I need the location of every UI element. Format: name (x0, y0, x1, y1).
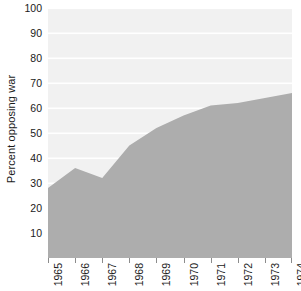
y-axis-tick-label: 100 (24, 2, 42, 14)
gridline (48, 83, 292, 85)
x-axis-tick-label: 1970 (188, 263, 200, 286)
y-axis-tick-label: 50 (30, 127, 42, 139)
x-axis-tick-label: 1967 (106, 263, 118, 286)
x-axis-tick-labels: 1965196619671968196919701971197219731974 (48, 263, 298, 291)
area-chart-figure: Percent opposing war 1020304050607080901… (0, 0, 301, 291)
gridline (48, 8, 292, 9)
y-axis-title-text: Percent opposing war (5, 75, 17, 183)
y-axis-tick-label: 30 (30, 177, 42, 189)
plot-area (48, 8, 292, 258)
x-axis-tick-label: 1974 (295, 263, 301, 286)
y-axis-title: Percent opposing war (0, 0, 22, 258)
x-axis-tick-label: 1968 (133, 263, 145, 286)
x-axis-tick-label: 1973 (269, 263, 281, 286)
y-axis-tick-label: 60 (30, 102, 42, 114)
y-axis-tick-labels: 102030405060708090100 (20, 0, 46, 258)
y-axis-tick-label: 20 (30, 202, 42, 214)
y-axis-tick-label: 80 (30, 52, 42, 64)
x-axis-tick-label: 1971 (215, 263, 227, 286)
y-axis-tick-label: 90 (30, 27, 42, 39)
area-chart-svg (48, 8, 292, 258)
x-axis-tick-label: 1965 (52, 263, 64, 286)
x-axis-tick-label: 1972 (242, 263, 254, 286)
y-axis-tick-label: 40 (30, 152, 42, 164)
x-axis-tick-label: 1969 (160, 263, 172, 286)
x-axis-tick-label: 1966 (79, 263, 91, 286)
gridline (48, 58, 292, 60)
y-axis-tick-label: 70 (30, 77, 42, 89)
y-axis-tick-label: 10 (30, 227, 42, 239)
gridline (48, 33, 292, 35)
